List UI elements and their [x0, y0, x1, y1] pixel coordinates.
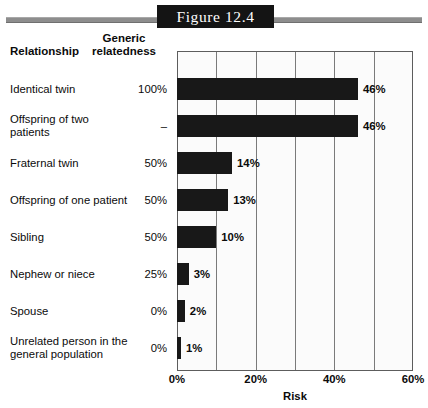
row-label-relationship: Sibling: [0, 231, 128, 244]
table-row: Spouse0%: [0, 298, 172, 324]
x-tick-60%: 60%: [402, 373, 425, 385]
row-value-generic-relatedness: 50%: [128, 194, 172, 206]
bar: [177, 115, 358, 137]
table-row: Sibling50%: [0, 224, 172, 250]
row-value-generic-relatedness: 0%: [128, 342, 172, 354]
table-row: Offspring of one patient50%: [0, 187, 172, 213]
row-value-generic-relatedness: 25%: [128, 268, 172, 280]
bar: [177, 226, 216, 248]
row-label-relationship: Nephew or niece: [0, 268, 128, 281]
bar: [177, 300, 185, 322]
bar-row: 10%: [177, 224, 413, 250]
row-value-generic-relatedness: –: [128, 120, 172, 132]
bar: [177, 78, 358, 100]
bar-value-label: 13%: [233, 189, 256, 211]
bar-row: 46%: [177, 113, 413, 139]
table-row: Offspring of two patients–: [0, 113, 172, 139]
bar-value-label: 10%: [221, 226, 244, 248]
bar-value-label: 46%: [363, 115, 386, 137]
figure-number-label: Figure 12.4: [176, 9, 254, 25]
row-label-relationship: Offspring of two patients: [0, 113, 128, 138]
row-label-relationship: Fraternal twin: [0, 157, 128, 170]
bar-row: 13%: [177, 187, 413, 213]
table-row: Fraternal twin50%: [0, 150, 172, 176]
bar-row: 46%: [177, 76, 413, 102]
row-label-relationship: Spouse: [0, 305, 128, 318]
bar-row: 2%: [177, 298, 413, 324]
bar-value-label: 46%: [363, 78, 386, 100]
relationship-rows: Identical twin100%Offspring of two patie…: [0, 0, 177, 408]
bar: [177, 152, 232, 174]
row-value-generic-relatedness: 0%: [128, 305, 172, 317]
row-value-generic-relatedness: 50%: [128, 157, 172, 169]
x-tick-40%: 40%: [323, 373, 346, 385]
row-label-relationship: Identical twin: [0, 83, 128, 96]
bar: [177, 189, 228, 211]
x-axis-tick-labels: 0%20%40%60%: [0, 373, 428, 389]
bar-row: 3%: [177, 261, 413, 287]
bar-value-label: 2%: [190, 300, 206, 322]
bar-row: 14%: [177, 150, 413, 176]
x-tick-0%: 0%: [169, 373, 185, 385]
bar: [177, 263, 189, 285]
bar-row: 1%: [177, 335, 413, 361]
row-label-relationship: Unrelated person in the general populati…: [0, 335, 128, 360]
x-tick-20%: 20%: [244, 373, 267, 385]
bar-value-label: 1%: [186, 337, 202, 359]
bar: [177, 337, 181, 359]
table-row: Identical twin100%: [0, 76, 172, 102]
row-value-generic-relatedness: 50%: [128, 231, 172, 243]
table-row: Nephew or niece25%: [0, 261, 172, 287]
chart-bars: 46%46%14%13%10%3%2%1%: [177, 51, 413, 371]
bar-value-label: 3%: [194, 263, 210, 285]
x-axis-title: Risk: [177, 390, 413, 402]
row-label-relationship: Offspring of one patient: [0, 194, 128, 207]
table-row: Unrelated person in the general populati…: [0, 335, 172, 361]
bar-value-label: 14%: [237, 152, 260, 174]
row-value-generic-relatedness: 100%: [128, 83, 172, 95]
